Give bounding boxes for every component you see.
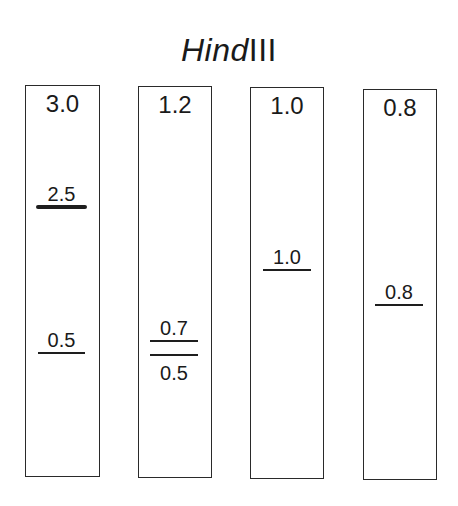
band-line	[263, 269, 311, 271]
lane-3: 1.0	[250, 87, 324, 479]
band-line	[375, 304, 423, 306]
band-line	[150, 354, 198, 356]
lane-size-label: 3.0	[26, 90, 99, 118]
band-size-label: 0.5	[32, 329, 92, 351]
band-size-label: 0.8	[369, 281, 429, 303]
lane-size-label: 0.8	[364, 94, 436, 122]
band-size-label: 2.5	[32, 183, 92, 205]
lane-size-label: 1.2	[139, 91, 211, 119]
band-size-label: 0.5	[144, 362, 204, 384]
band-line	[36, 205, 87, 209]
band-size-label: 1.0	[257, 246, 317, 268]
band-line	[150, 340, 198, 342]
enzyme-title: HindIII	[0, 30, 458, 70]
enzyme-title-italic: Hind	[181, 32, 249, 68]
lane-1: 3.0	[25, 85, 100, 477]
enzyme-title-roman: III	[249, 32, 277, 68]
band-size-label: 0.7	[144, 317, 204, 339]
lane-2: 1.2	[138, 86, 212, 478]
band-line	[38, 352, 85, 354]
lane-size-label: 1.0	[251, 92, 323, 120]
